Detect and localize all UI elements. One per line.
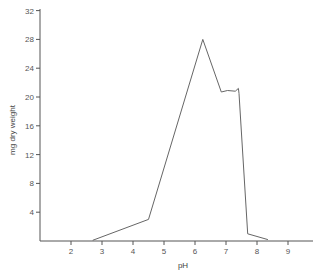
x-tick-label: 4: [131, 247, 136, 256]
y-tick-label: 32: [25, 7, 34, 16]
x-tick-label: 7: [224, 247, 229, 256]
y-tick-label: 4: [30, 208, 35, 217]
x-axis: 23456789: [40, 241, 313, 256]
x-tick-label: 2: [69, 247, 74, 256]
x-tick-label: 3: [100, 247, 105, 256]
y-tick-label: 28: [25, 35, 34, 44]
x-axis-title: pH: [178, 261, 188, 270]
data-line: [93, 39, 268, 240]
y-tick-label: 8: [30, 179, 35, 188]
y-tick-label: 12: [25, 151, 34, 160]
y-tick-label: 20: [25, 93, 34, 102]
x-tick-label: 6: [193, 247, 198, 256]
y-axis-title: mg dry weight: [8, 104, 17, 155]
chart-canvas: 48121620242832 23456789 pH mg dry weight: [0, 0, 324, 279]
y-axis: 48121620242832: [25, 7, 40, 241]
x-tick-label: 8: [255, 247, 260, 256]
y-tick-label: 16: [25, 122, 34, 131]
x-tick-label: 5: [162, 247, 167, 256]
x-tick-label: 9: [286, 247, 291, 256]
y-tick-label: 24: [25, 64, 34, 73]
